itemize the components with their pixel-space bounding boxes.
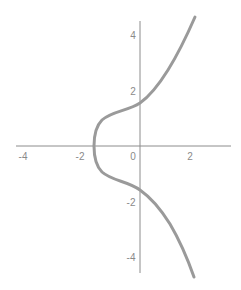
- x-tick-label: -2: [76, 151, 85, 162]
- y-tick-label: -2: [127, 197, 136, 208]
- curve-line: [94, 17, 195, 277]
- x-tick-label: 2: [187, 151, 193, 162]
- chart-canvas: -4 -2 0 2 4 2 -2 -4: [0, 0, 241, 290]
- x-tick-label: -4: [19, 151, 28, 162]
- y-tick-label: -4: [127, 252, 136, 263]
- x-tick-label: 0: [130, 151, 136, 162]
- y-tick-label: 4: [130, 30, 136, 41]
- y-tick-label: 2: [130, 86, 136, 97]
